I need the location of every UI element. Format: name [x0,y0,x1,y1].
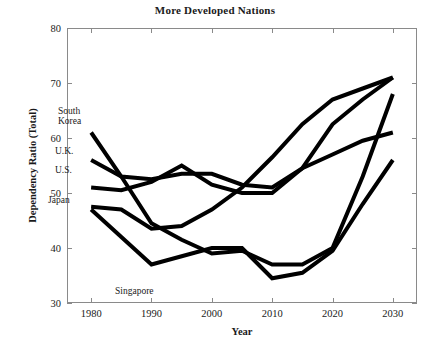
series-label-japan: Japan [48,196,70,206]
y-tick-label: 70 [31,78,61,89]
x-tick-label: 2020 [308,308,358,319]
y-tick-mark [412,303,417,304]
y-tick-mark [412,193,417,194]
y-tick-label: 30 [31,298,61,309]
x-axis-title: Year [67,326,417,337]
y-tick-mark [67,83,72,84]
y-tick-mark [412,83,417,84]
y-tick-mark [67,28,72,29]
y-tick-label: 40 [31,243,61,254]
x-tick-label: 2000 [187,308,237,319]
x-tick-label: 1990 [126,308,176,319]
y-tick-mark [412,138,417,139]
x-tick-label: 2010 [247,308,297,319]
series-label-u-s: U.S. [55,166,72,176]
series-line-u-k [91,133,393,188]
series-label-singapore: Singapore [115,287,154,297]
y-tick-mark [67,138,72,139]
y-tick-mark [67,193,72,194]
y-tick-mark [412,248,417,249]
plot-area [67,28,417,303]
y-tick-mark [67,248,72,249]
x-tick-mark [393,298,394,303]
y-tick-label: 60 [31,133,61,144]
x-tick-mark [272,28,273,33]
chart-container: More Developed Nations Dependency Ratio … [0,0,430,350]
x-tick-mark [333,298,334,303]
y-tick-mark [67,303,72,304]
x-tick-mark [272,298,273,303]
x-tick-mark [151,28,152,33]
x-tick-mark [91,298,92,303]
x-tick-label: 1980 [66,308,116,319]
x-tick-mark [212,298,213,303]
x-tick-mark [151,298,152,303]
series-label-u-k: U.K. [55,147,73,157]
x-tick-mark [91,28,92,33]
chart-title: More Developed Nations [0,4,430,16]
series-line-japan [91,78,393,229]
y-tick-mark [412,28,417,29]
x-tick-mark [333,28,334,33]
x-tick-label: 2030 [368,308,418,319]
x-tick-mark [212,28,213,33]
series-lines [67,28,417,303]
series-label-south-korea: South Korea [58,107,81,127]
y-tick-label: 80 [31,23,61,34]
x-tick-mark [393,28,394,33]
